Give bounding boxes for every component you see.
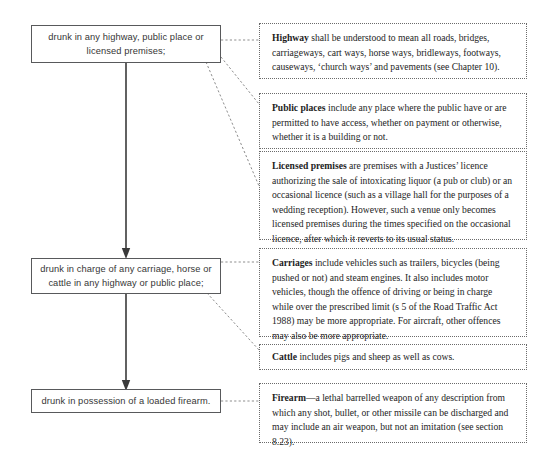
note-carriages-term: Carriages bbox=[272, 257, 313, 268]
note-firearm[interactable]: Firearm—a lethal barrelled weapon of any… bbox=[259, 383, 527, 443]
note-public-places-term: Public places bbox=[272, 102, 326, 113]
flow-arrow-step1-step2 bbox=[122, 62, 130, 259]
flow-step-2-label: drunk in charge of any carriage, horse o… bbox=[40, 262, 212, 291]
note-licensed-premises[interactable]: Licensed premises are premises with a Ju… bbox=[259, 151, 527, 240]
note-firearm-term: Firearm bbox=[272, 392, 306, 403]
flow-step-2[interactable]: drunk in charge of any carriage, horse o… bbox=[31, 258, 221, 294]
note-highway[interactable]: Highway shall be understood to mean all … bbox=[259, 23, 527, 79]
note-cattle-term: Cattle bbox=[272, 351, 297, 362]
note-carriages[interactable]: Carriages include vehicles such as trail… bbox=[259, 248, 527, 337]
leader-step2-cattle bbox=[207, 293, 259, 350]
flow-step-1[interactable]: drunk in any highway, public place or li… bbox=[31, 25, 221, 63]
note-carriages-body: include vehicles such as trailers, bicyc… bbox=[272, 257, 500, 341]
note-cattle[interactable]: Cattle includes pigs and sheep as well a… bbox=[259, 344, 527, 370]
note-public-places[interactable]: Public places include any place where th… bbox=[259, 93, 527, 149]
flow-step-3-label: drunk in possession of a loaded firearm. bbox=[42, 394, 211, 408]
leader-step1-licensed-premises bbox=[206, 62, 259, 186]
note-licensed-premises-term: Licensed premises bbox=[272, 160, 347, 171]
diagram-canvas: drunk in any highway, public place or li… bbox=[0, 0, 547, 461]
flow-step-3[interactable]: drunk in possession of a loaded firearm. bbox=[31, 389, 221, 413]
note-cattle-body: includes pigs and sheep as well as cows. bbox=[297, 351, 454, 362]
note-licensed-premises-body: are premises with a Justices’ licence au… bbox=[272, 160, 512, 244]
flow-arrow-step2-step3 bbox=[122, 293, 130, 391]
leader-step1-public-places bbox=[221, 57, 259, 104]
note-firearm-body: —a lethal barrelled weapon of any descri… bbox=[272, 392, 508, 447]
note-highway-term: Highway bbox=[272, 32, 309, 43]
flow-step-1-label: drunk in any highway, public place or li… bbox=[40, 30, 212, 59]
